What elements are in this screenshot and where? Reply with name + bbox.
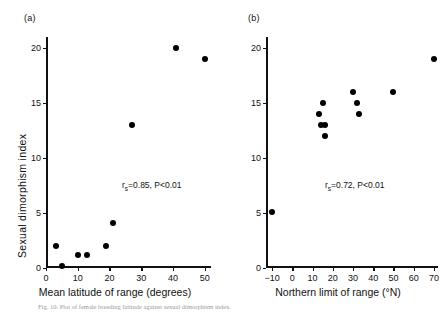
data-point (53, 243, 59, 249)
data-point (59, 263, 65, 269)
panel-a-y-tick (43, 213, 46, 214)
data-point (269, 209, 275, 215)
panel-b-y-tick (263, 268, 266, 269)
panel-b-x-tick-label: −10 (264, 273, 279, 283)
panel-a-y-tick-label: 0 (36, 263, 41, 273)
panel-a-x-tick (205, 268, 206, 271)
panel-b-x-tick-label: 40 (368, 273, 378, 283)
data-point (354, 100, 360, 106)
panel-b-x-tick (272, 268, 273, 271)
panel-b-x-axis-label: Northern limit of range (°N) (232, 286, 444, 298)
panel-b-x-tick-label: 20 (328, 273, 338, 283)
panel-b-y-tick-label: 0 (256, 263, 261, 273)
panel-b-x-tick-label: 0 (290, 273, 295, 283)
panel-a-x-tick-label: 50 (200, 273, 210, 283)
panel-b-y-tick-label: 10 (251, 153, 261, 163)
panel-a-x-tick (46, 268, 47, 271)
panel-b-x-tick-label: 10 (308, 273, 318, 283)
data-point (350, 89, 356, 95)
panel-b-label: (b) (248, 13, 260, 23)
panel-b-annotation-rest: =0.72, P<0.01 (331, 180, 384, 190)
panel-b-annotation: rs=0.72, P<0.01 (325, 180, 385, 192)
panel-b-y-tick-label: 20 (251, 43, 261, 53)
panel-b-y-tick (263, 213, 266, 214)
panel-b-x-tick-label: 60 (409, 273, 419, 283)
panel-b-x-tick (414, 268, 415, 271)
data-point (356, 111, 362, 117)
panel-b-x-tick (393, 268, 394, 271)
panel-a-y-axis-label: Sexual dimorphism index (16, 134, 28, 258)
panel-b-x-tick-label: 30 (348, 273, 358, 283)
panel-b-y-tick-label: 5 (256, 208, 261, 218)
panel-b-x-tick (434, 268, 435, 271)
panel-a-x-tick (141, 268, 142, 271)
panel-b: (b) 05101520−10010203040506070 Northern … (224, 0, 448, 318)
data-point (320, 100, 326, 106)
panel-b-x-tick (313, 268, 314, 271)
data-point (202, 56, 208, 62)
panel-a-y-tick-label: 5 (36, 208, 41, 218)
panel-b-y-tick (263, 103, 266, 104)
panel-b-y-tick-label: 15 (251, 98, 261, 108)
panel-a-y-tick (43, 48, 46, 49)
data-point (322, 122, 328, 128)
panel-a-x-tick-label: 40 (168, 273, 178, 283)
figure-caption: Fig. 10. Plot of female breeding latitud… (38, 303, 430, 310)
panel-a-y-tick (43, 158, 46, 159)
data-point (103, 243, 109, 249)
panel-a-x-axis-label: Mean latitude of range (degrees) (10, 286, 220, 298)
data-point (173, 45, 179, 51)
data-point (390, 89, 396, 95)
data-point (129, 122, 135, 128)
panel-a-x-tick (109, 268, 110, 271)
data-point (316, 111, 322, 117)
panel-a-y-tick-label: 15 (31, 98, 41, 108)
panel-b-x-tick-label: 50 (388, 273, 398, 283)
panel-b-y-tick (263, 158, 266, 159)
panel-a-x-tick-label: 20 (104, 273, 114, 283)
panel-a-y-tick-label: 20 (31, 43, 41, 53)
panel-b-y-axis-line (266, 37, 268, 268)
panel-a-x-axis-line (46, 266, 211, 268)
panel-a-annotation-rest: =0.85, P<0.01 (128, 180, 181, 190)
panel-b-plot-area: 05101520−10010203040506070 (266, 37, 438, 268)
panel-b-x-tick (353, 268, 354, 271)
panel-a-x-tick-label: 0 (43, 273, 48, 283)
panel-b-x-tick (292, 268, 293, 271)
panel-b-axes: 05101520−10010203040506070 (266, 37, 438, 268)
panel-a-x-tick-label: 30 (136, 273, 146, 283)
data-point (431, 56, 437, 62)
panel-b-x-tick (333, 268, 334, 271)
panel-a-annotation: rs=0.85, P<0.01 (122, 180, 182, 192)
panel-b-y-tick (263, 48, 266, 49)
panel-a-y-tick (43, 103, 46, 104)
data-point (84, 252, 90, 258)
panel-a-label: (a) (24, 13, 36, 23)
panel-a-y-tick-label: 10 (31, 153, 41, 163)
panel-b-x-tick-label: 70 (429, 273, 439, 283)
data-point (322, 133, 328, 139)
panel-a-axes: 0510152001020304050 (46, 37, 211, 268)
panel-a-plot-area: 0510152001020304050 (46, 37, 211, 268)
data-point (75, 252, 81, 258)
panel-a: (a) 0510152001020304050 Sexual dimorphis… (0, 0, 224, 318)
panel-a-y-axis-line (46, 37, 48, 268)
figure-panels: (a) 0510152001020304050 Sexual dimorphis… (0, 0, 448, 318)
panel-a-x-tick (173, 268, 174, 271)
panel-b-x-tick (373, 268, 374, 271)
data-point (110, 220, 116, 226)
panel-a-x-tick (78, 268, 79, 271)
panel-a-x-tick-label: 10 (73, 273, 83, 283)
